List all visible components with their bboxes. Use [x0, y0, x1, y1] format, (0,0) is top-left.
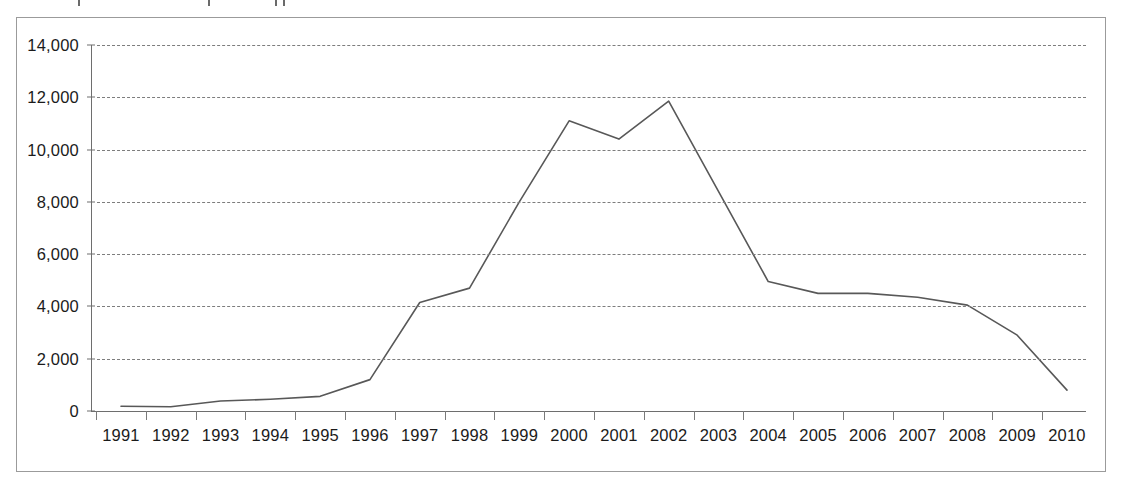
y-axis-tick-label: 2,000	[1, 349, 79, 368]
x-axis-tick	[594, 411, 595, 420]
x-axis-tick-label: 2005	[799, 426, 837, 445]
x-axis-tick-label: 1994	[252, 426, 290, 445]
chart-figure-frame: 02,0004,0006,0008,00010,00012,00014,0001…	[16, 17, 1106, 472]
gridline-y	[97, 254, 1086, 255]
x-axis-tick-label: 2004	[749, 426, 787, 445]
x-axis-tick	[943, 411, 944, 420]
x-axis-tick	[843, 411, 844, 420]
x-axis-tick-label: 1998	[451, 426, 489, 445]
x-axis-tick	[893, 411, 894, 420]
y-axis-tick-label: 8,000	[1, 192, 79, 211]
x-axis-tick	[245, 411, 246, 420]
x-axis-tick	[793, 411, 794, 420]
x-axis-tick	[146, 411, 147, 420]
x-axis-tick-label: 2009	[998, 426, 1036, 445]
gridline-y	[97, 202, 1086, 203]
gridline-y	[97, 97, 1086, 98]
caption-descender-remnant	[0, 0, 1136, 8]
y-axis-line	[91, 45, 92, 411]
x-axis-tick-label: 2000	[550, 426, 588, 445]
series-line	[17, 18, 1107, 473]
y-axis-tick-label: 4,000	[1, 297, 79, 316]
x-axis-tick-label: 1993	[202, 426, 240, 445]
x-axis-tick-label: 2007	[899, 426, 937, 445]
x-axis-tick	[992, 411, 993, 420]
axis-baseline	[91, 411, 1086, 412]
x-axis-tick-label: 1992	[152, 426, 190, 445]
x-axis-tick-label: 2003	[700, 426, 738, 445]
gridline-y	[97, 45, 1086, 46]
line-chart-plot-area: 02,0004,0006,0008,00010,00012,00014,0001…	[17, 18, 1107, 473]
y-axis-tick-label: 14,000	[1, 36, 79, 55]
x-axis-tick	[494, 411, 495, 420]
x-axis-tick-label: 2006	[849, 426, 887, 445]
y-axis-tick-label: 0	[1, 402, 79, 421]
x-axis-tick	[345, 411, 346, 420]
x-axis-tick-label: 1995	[301, 426, 339, 445]
gridline-y	[97, 150, 1086, 151]
x-axis-tick	[644, 411, 645, 420]
gridline-y	[97, 306, 1086, 307]
y-axis-tick-label: 6,000	[1, 245, 79, 264]
x-axis-tick-label: 2002	[650, 426, 688, 445]
x-axis-tick	[544, 411, 545, 420]
x-axis-tick	[295, 411, 296, 420]
x-axis-tick-label: 1991	[102, 426, 140, 445]
x-axis-tick	[96, 411, 97, 420]
x-axis-tick-label: 1996	[351, 426, 389, 445]
x-axis-tick-label: 2010	[1048, 426, 1086, 445]
x-axis-tick-label: 1997	[401, 426, 439, 445]
x-axis-tick	[694, 411, 695, 420]
x-axis-tick-label: 2008	[949, 426, 987, 445]
x-axis-tick	[445, 411, 446, 420]
x-axis-tick-label: 1999	[501, 426, 539, 445]
x-axis-tick	[743, 411, 744, 420]
y-axis-tick-label: 12,000	[1, 88, 79, 107]
x-axis-tick	[1042, 411, 1043, 420]
x-axis-tick	[196, 411, 197, 420]
x-axis-tick-label: 2001	[600, 426, 638, 445]
gridline-y	[97, 359, 1086, 360]
x-axis-tick	[395, 411, 396, 420]
y-axis-tick-label: 10,000	[1, 140, 79, 159]
